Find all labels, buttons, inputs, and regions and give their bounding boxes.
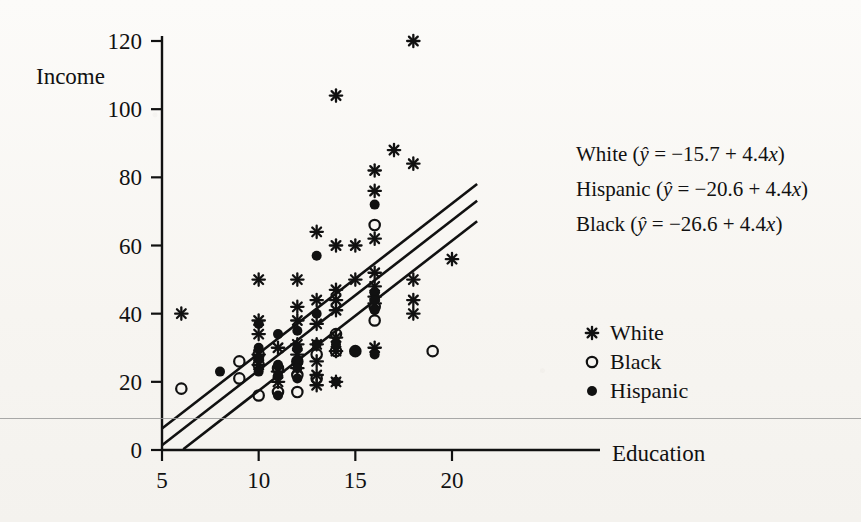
data-point [330,304,342,316]
data-point [254,367,264,377]
data-point [292,343,302,353]
data-point [273,329,283,339]
data-point [273,360,283,370]
data-point [252,273,264,285]
legend-label: Black [610,349,661,374]
x-tick-label: 10 [247,468,270,493]
y-tick-label: 20 [119,370,142,395]
x-tick-label: 15 [344,468,367,493]
figure-root: 0204060801001205101520 IncomeEducation W… [0,0,861,522]
data-point [388,144,400,156]
data-point [272,342,284,354]
data-point [291,314,303,326]
legend-label: White [610,320,664,345]
data-point [369,315,379,325]
legend-item-white: White [586,320,664,345]
series-white [175,35,458,392]
x-axis-title: Education [612,441,706,466]
legend-item-black: Black [587,349,662,374]
axes-layer: 0204060801001205101520 [108,29,601,493]
legend-label: Hispanic [610,378,688,403]
y-tick-label: 40 [119,302,142,327]
data-point [273,370,283,380]
data-point [310,226,322,238]
data-point [292,326,302,336]
equation-labels-layer: White (ŷ = −15.7 + 4.4x)Hispanic (ŷ = … [576,142,808,236]
y-tick-label: 80 [119,165,142,190]
data-point [368,164,380,176]
legend-item-hispanic: Hispanic [587,378,688,403]
y-tick-label: 60 [119,234,142,259]
data-point [254,319,264,329]
legend-layer: WhiteBlackHispanic [586,320,689,403]
data-point [369,220,379,230]
data-point [292,373,302,383]
data-point [175,307,187,319]
x-tick-label: 20 [441,468,464,493]
data-point [350,346,360,356]
data-point [176,383,186,393]
y-tick-label: 0 [131,438,143,463]
equation-label-hispanic: Hispanic (ŷ = −20.6 + 4.4x) [576,177,808,201]
data-point [312,309,322,319]
data-point [368,267,380,279]
data-point [291,301,303,313]
y-tick-label: 100 [108,97,143,122]
scan-artifact-line [0,418,861,419]
x-tick-label: 5 [156,468,168,493]
data-point [368,232,380,244]
data-point [234,356,244,366]
data-point [330,89,342,101]
data-point [368,185,380,197]
equation-label-white: White (ŷ = −15.7 + 4.4x) [576,142,785,166]
data-point [291,273,303,285]
data-point [446,253,458,265]
data-point [254,353,264,363]
data-point [331,377,341,387]
y-axis-title: Income [36,64,105,89]
scatter-plot: 0204060801001205101520 IncomeEducation W… [0,0,861,522]
data-point [331,339,341,349]
data-point [310,294,322,306]
data-point [427,346,437,356]
data-point [370,305,380,315]
data-point [370,200,380,210]
y-tick-label: 120 [108,29,143,54]
equation-label-black: Black (ŷ = −26.6 + 4.4x) [576,212,782,236]
data-point [292,387,302,397]
data-point [370,350,380,360]
data-point [407,273,419,285]
data-point [349,239,361,251]
data-point [407,35,419,47]
data-point [252,328,264,340]
data-point [407,307,419,319]
data-point [254,343,264,353]
regression-line-white [162,184,477,428]
data-points-layer [175,35,458,401]
data-point [273,390,283,400]
data-point [370,295,380,305]
data-point [312,339,322,349]
data-point [330,239,342,251]
data-point [407,294,419,306]
data-point [215,367,225,377]
data-point [292,363,302,373]
data-point [349,273,361,285]
data-point [234,373,244,383]
data-point [407,158,419,170]
data-point [312,251,322,261]
data-point [310,318,322,330]
